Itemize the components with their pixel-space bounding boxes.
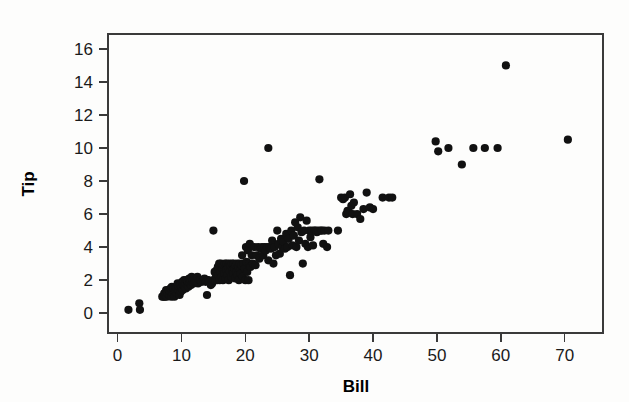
data-point [334, 226, 342, 234]
scatter-plot: 010203040506070 0246810121416 Bill Tip [0, 0, 629, 402]
data-point [458, 160, 466, 168]
data-point [363, 188, 371, 196]
x-tick-label: 30 [300, 346, 319, 365]
data-point [286, 271, 294, 279]
x-tick-label: 20 [236, 346, 255, 365]
data-point [209, 226, 217, 234]
data-point [203, 291, 211, 299]
y-tick-label: 6 [84, 205, 93, 224]
data-point [434, 147, 442, 155]
data-point [346, 190, 354, 198]
data-point [444, 144, 452, 152]
data-point [240, 177, 248, 185]
x-tick-label: 50 [427, 346, 446, 365]
x-tick-label: 60 [491, 346, 510, 365]
y-tick-label: 16 [74, 40, 93, 59]
data-point [309, 241, 317, 249]
data-point [264, 144, 272, 152]
data-point [494, 144, 502, 152]
y-axis-title: Tip [19, 171, 38, 196]
x-axis-title: Bill [343, 377, 369, 396]
data-point [369, 205, 377, 213]
data-point [124, 306, 132, 314]
x-tick-label: 10 [172, 346, 191, 365]
y-tick-label: 4 [84, 238, 93, 257]
data-points [124, 61, 572, 314]
figure-container: 010203040506070 0246810121416 Bill Tip [0, 0, 629, 402]
data-point [299, 260, 307, 268]
data-point [244, 276, 252, 284]
data-point [432, 137, 440, 145]
y-tick-label: 2 [84, 271, 93, 290]
data-point [356, 215, 364, 223]
data-point [388, 193, 396, 201]
data-point [136, 306, 144, 314]
data-point [350, 198, 358, 206]
y-tick-label: 12 [74, 106, 93, 125]
x-tick-label: 70 [555, 346, 574, 365]
data-point [303, 217, 311, 225]
x-tick-label: 40 [364, 346, 383, 365]
data-point [324, 226, 332, 234]
x-tick-label: 0 [113, 346, 122, 365]
data-point [564, 136, 572, 144]
data-point [323, 243, 331, 251]
y-tick-label: 14 [74, 73, 93, 92]
y-tick-label: 0 [84, 304, 93, 323]
data-point [502, 61, 510, 69]
y-axis-ticks: 0246810121416 [74, 40, 108, 323]
x-axis-ticks: 010203040506070 [113, 333, 574, 365]
y-tick-label: 10 [74, 139, 93, 158]
data-point [481, 144, 489, 152]
data-point [315, 175, 323, 183]
data-point [469, 144, 477, 152]
y-tick-label: 8 [84, 172, 93, 191]
data-point [269, 260, 277, 268]
data-point [273, 226, 281, 234]
